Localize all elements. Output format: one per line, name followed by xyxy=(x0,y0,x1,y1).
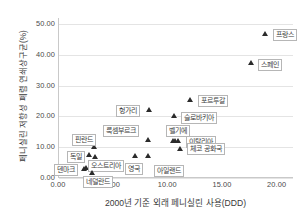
data-point-marker[interactable] xyxy=(89,170,95,175)
data-point-label: 포르투갈 xyxy=(198,95,228,107)
data-point-label: 벨기에 xyxy=(166,125,190,137)
data-point-label: 룩셈부르크 xyxy=(103,125,139,137)
data-point-marker[interactable] xyxy=(145,153,151,158)
data-point-marker[interactable] xyxy=(175,138,181,143)
y-tick-label: 30.00 xyxy=(11,81,55,90)
x-tick-label: 20.00 xyxy=(256,180,298,189)
data-point-marker[interactable] xyxy=(132,153,138,158)
data-point-marker[interactable] xyxy=(177,146,183,151)
data-point-marker[interactable] xyxy=(171,113,177,118)
x-tick-label: 0.00 xyxy=(37,180,79,189)
data-point-marker[interactable] xyxy=(86,152,92,157)
data-point-marker[interactable] xyxy=(81,166,87,171)
data-point-marker[interactable] xyxy=(145,137,151,142)
y-tick-label: 10.00 xyxy=(11,142,55,151)
x-tick-label: 15.00 xyxy=(201,180,243,189)
y-axis-title: 페니실린 저항성 폐렴 연쇄상구균(%) xyxy=(16,16,28,176)
y-tick-label: 40.00 xyxy=(11,50,55,59)
y-tick-label: 20.00 xyxy=(11,111,55,120)
data-point-marker[interactable] xyxy=(187,97,193,102)
gridline-y-30.00 xyxy=(59,86,293,87)
gridline-y-50.00 xyxy=(59,24,293,25)
data-point-marker[interactable] xyxy=(262,31,268,36)
x-axis-title: 2000년 기준 외래 페니실린 사용(DDD) xyxy=(58,196,293,208)
data-point-label: 아일랜드 xyxy=(154,165,184,177)
data-point-marker[interactable] xyxy=(146,107,152,112)
data-point-label: 스페인 xyxy=(258,59,282,71)
data-point-marker[interactable] xyxy=(248,60,254,65)
data-point-label: 영국 xyxy=(125,163,143,175)
gridline-y-40.00 xyxy=(59,55,293,56)
data-point-label: 체코 공화국 xyxy=(187,143,225,155)
data-point-label: 핀란드 xyxy=(72,134,96,146)
data-point-label: 프랑스 xyxy=(273,29,297,41)
data-point-label: 네덜란드 xyxy=(83,176,113,188)
scatter-chart: 페니실린 저항성 폐렴 연쇄상구균(%) 2000년 기준 외래 페니실린 사용… xyxy=(0,0,303,223)
data-point-label: 독일 xyxy=(67,151,85,163)
data-point-marker[interactable] xyxy=(92,154,98,159)
data-point-label: 덴마크 xyxy=(54,164,78,176)
data-point-label: 슬로바키아 xyxy=(181,112,217,124)
data-point-label: 헝가리 xyxy=(116,105,140,117)
x-tick-label: 10.00 xyxy=(146,180,188,189)
y-tick-label: 50.00 xyxy=(11,19,55,28)
